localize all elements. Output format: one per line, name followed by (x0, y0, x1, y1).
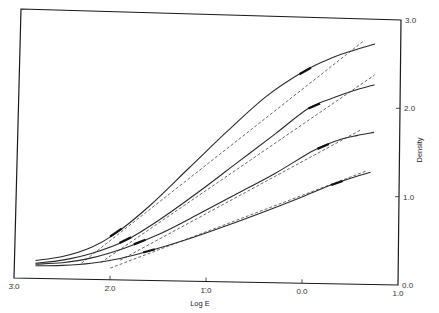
tangent-point-marker (308, 104, 320, 109)
tangent-line (101, 75, 375, 263)
y-tick-label: 0.0 (402, 281, 414, 290)
x-tick-label: 1̄.0 (200, 286, 212, 295)
plot-frame (14, 9, 401, 285)
characteristic-curve (36, 85, 375, 264)
series-layer (35, 40, 375, 268)
tangent-point-marker (331, 181, 343, 185)
tangent-point-marker (119, 237, 131, 243)
x-tick-label: 3̄.0 (8, 282, 20, 291)
x-axis-title: Log E (190, 299, 210, 308)
y-tick-label: 1.0 (403, 193, 415, 202)
x-tick-label: 0.0 (296, 287, 308, 296)
series-curve-2 (36, 75, 375, 263)
series-curve-4 (35, 171, 370, 268)
tangent-point-marker (134, 240, 146, 245)
x-tick-label: 2̄.0 (104, 284, 116, 293)
tangent-point-marker (110, 229, 122, 237)
tangent-point-marker (299, 68, 311, 75)
tangent-line (110, 171, 366, 268)
y-axis-title: Density (415, 137, 424, 162)
series-curve-1 (36, 40, 375, 263)
characteristic-curve (35, 172, 370, 266)
characteristic-curve (36, 44, 375, 261)
characteristic-curve-chart: 3̄.02̄.01̄.00.01.0 0.01.02.03.0 Log E De… (0, 0, 439, 313)
tangent-line (120, 129, 362, 260)
y-tick-label: 3.0 (405, 16, 417, 25)
plot-frame-border (14, 9, 401, 285)
x-tick-label: 1.0 (392, 289, 404, 298)
series-curve-3 (36, 129, 375, 264)
y-tick-label: 2.0 (404, 104, 416, 113)
tangent-line (82, 40, 365, 263)
